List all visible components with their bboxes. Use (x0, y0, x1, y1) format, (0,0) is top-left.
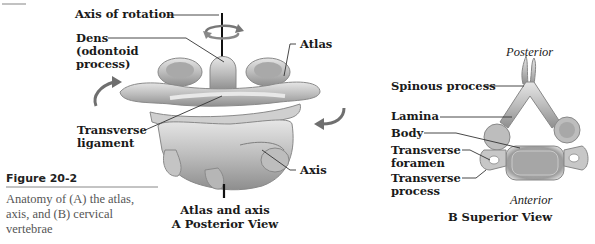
label-spinous-process: Spinous process (391, 80, 496, 93)
orientation-anterior: Anterior (510, 193, 552, 208)
panel-a-title: Atlas and axis A Posterior View (150, 203, 300, 231)
figure-caption: Anatomy of (A) the atlas, axis, and (B) … (6, 192, 134, 237)
label-transverse-process-line2: process (391, 185, 461, 198)
figure-caption-line2: axis, and (B) cervical (6, 207, 134, 222)
panel-a-title-line2: A Posterior View (150, 217, 300, 231)
figure-caption-line3: vertebrae (6, 222, 134, 237)
label-dens-line3: process) (76, 58, 139, 71)
label-axis: Axis (300, 164, 327, 177)
orientation-posterior: Posterior (506, 45, 553, 60)
figure-caption-line1: Anatomy of (A) the atlas, (6, 192, 134, 207)
panel-b-title: B Superior View (430, 210, 570, 224)
label-atlas: Atlas (300, 38, 332, 51)
label-lamina: Lamina (391, 110, 439, 123)
label-body: Body (391, 127, 423, 140)
label-transverse-ligament: Transverse ligament (77, 124, 147, 150)
label-dens: Dens (odontoid process) (76, 32, 139, 71)
figure-number: Figure 20-2 (6, 172, 77, 185)
label-axis-of-rotation: Axis of rotation (75, 8, 174, 21)
panel-a-title-line1: Atlas and axis (150, 203, 300, 217)
label-transverse-ligament-line2: ligament (77, 137, 147, 150)
label-transverse-foramen: Transverse foramen (391, 144, 461, 170)
label-transverse-process: Transverse process (391, 172, 461, 198)
cervical-vertebra-drawing (480, 56, 588, 180)
label-transverse-foramen-line2: foramen (391, 157, 461, 170)
